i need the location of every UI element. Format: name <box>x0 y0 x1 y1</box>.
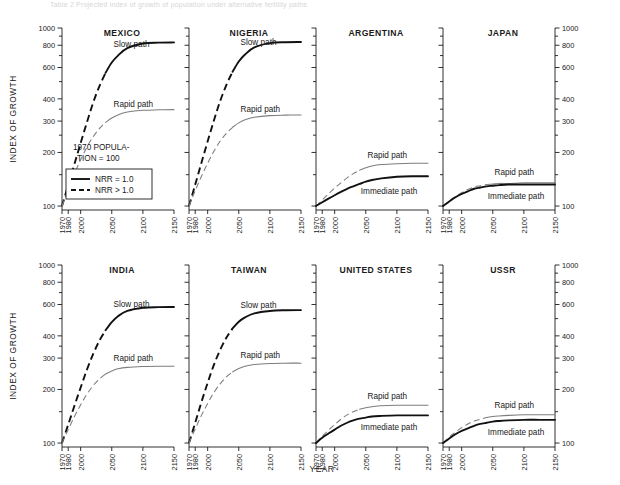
y-tick-label: 300 <box>562 354 574 363</box>
x-tick-label: 2050 <box>235 454 244 470</box>
panel-title: ARGENTINA <box>348 28 403 38</box>
panel-title: UNITED STATES <box>340 265 413 275</box>
x-tick-label: 2100 <box>139 217 148 233</box>
x-tick-label: 2050 <box>108 217 117 233</box>
y-tick-label: 800 <box>562 278 574 287</box>
panel-nigeria: 197019802000205021002150NIGERIASlow path… <box>185 28 307 233</box>
y-tick-label: 600 <box>43 63 55 72</box>
x-tick-label: 2050 <box>362 454 371 470</box>
x-tick-label: 2150 <box>170 217 179 233</box>
curve-rapid-path-dashed <box>189 127 233 206</box>
legend-item-label: NRR = 1.0 <box>95 175 134 184</box>
panel-title: NIGERIA <box>230 28 269 38</box>
curve-slow-path-solid <box>233 310 301 328</box>
x-tick-label: 2150 <box>424 454 433 470</box>
x-axis-title: YEAR <box>310 464 335 474</box>
y-axis <box>58 265 63 447</box>
legend: 1970 POPULA-TION = 100NRR = 1.0NRR > 1.0 <box>66 143 152 199</box>
curve-label-rapid-path: Rapid path <box>114 354 154 363</box>
x-axis: 197019802000205021002150 <box>58 447 179 470</box>
curve-rapid-path-dashed <box>62 374 106 443</box>
y-tick-label: 100 <box>43 202 55 211</box>
y-axis <box>185 265 190 447</box>
curve-label-slow-path: Slow path <box>241 301 277 310</box>
x-axis: 197019802000205021002150 <box>312 210 433 233</box>
curve-label-immediate-path: Immediate path <box>361 187 418 196</box>
y-axis <box>312 265 317 447</box>
curve-rapid-path-solid <box>233 363 301 372</box>
y-tick-labels: 1002003004006008001000 <box>562 24 578 211</box>
x-tick-label: 2000 <box>331 217 340 233</box>
y-axis-title-bottom: INDEX OF GROWTH <box>8 312 18 400</box>
x-tick-label: 2150 <box>297 454 306 470</box>
y-tick-label: 100 <box>562 439 574 448</box>
y-tick-label: 400 <box>43 95 55 104</box>
y-tick-label: 1000 <box>562 24 578 33</box>
y-tick-label: 1000 <box>39 261 55 270</box>
y-axis-title-top: INDEX OF GROWTH <box>8 75 18 163</box>
curve-rapid-path-solid <box>487 415 555 418</box>
panel-title: USSR <box>490 265 516 275</box>
y-axis <box>439 265 444 447</box>
panel-india: 1002003004006008001000197019802000205021… <box>39 261 179 471</box>
x-tick-label: 2000 <box>458 217 467 233</box>
legend-item-label: NRR > 1.0 <box>95 186 134 195</box>
panel-united-states: 197019802000205021002150UNITED STATESRap… <box>312 265 434 470</box>
curve-rapid-path-dashed <box>316 170 360 206</box>
panel-title: JAPAN <box>488 28 519 38</box>
y-tick-label: 600 <box>43 300 55 309</box>
y-tick-label: 200 <box>562 148 574 157</box>
y-axis <box>555 28 560 210</box>
curve-label-slow-path: Slow path <box>114 300 150 309</box>
panel-title: INDIA <box>109 265 135 275</box>
x-tick-label: 1980 <box>191 217 200 233</box>
x-tick-label: 2100 <box>266 454 275 470</box>
x-tick-label: 2000 <box>204 217 213 233</box>
panel-taiwan: 197019802000205021002150TAIWANSlow pathR… <box>185 265 307 470</box>
y-tick-label: 200 <box>562 385 574 394</box>
x-axis: 197019802000205021002150 <box>58 210 179 233</box>
curve-rapid-path-solid <box>360 163 428 170</box>
y-tick-label: 300 <box>43 117 55 126</box>
curve-label-immediate-path: Immediate path <box>361 423 418 432</box>
y-tick-label: 800 <box>43 278 55 287</box>
x-axis: 197019802000205021002150 <box>185 447 306 470</box>
curve-rapid-path-solid <box>360 405 428 409</box>
x-tick-label: 2150 <box>551 454 560 470</box>
x-tick-label: 1980 <box>445 454 454 470</box>
curve-label-immediate-path: Immediate path <box>488 428 545 437</box>
x-tick-label: 2000 <box>77 454 86 470</box>
x-tick-label: 2150 <box>424 217 433 233</box>
y-axis <box>312 28 317 210</box>
x-tick-label: 2000 <box>77 217 86 233</box>
x-tick-label: 1980 <box>191 454 200 470</box>
curve-rapid-path-solid <box>106 110 174 123</box>
x-axis: 197019802000205021002150 <box>439 447 560 470</box>
curve-slow-path-dashed <box>62 330 106 443</box>
legend-annotation-line2: TION = 100 <box>77 154 120 163</box>
curve-label-immediate-path: Immediate path <box>488 192 545 201</box>
panel-japan: 1002003004006008001000197019802000205021… <box>439 24 579 234</box>
y-tick-labels: 1002003004006008001000 <box>562 261 578 448</box>
y-tick-label: 200 <box>43 148 55 157</box>
legend-annotation-line1: 1970 POPULA- <box>73 143 130 152</box>
x-tick-label: 2050 <box>489 454 498 470</box>
curve-label-rapid-path: Rapid path <box>241 105 281 114</box>
x-tick-label: 2050 <box>362 217 371 233</box>
x-tick-label: 2000 <box>204 454 213 470</box>
curve-label-rapid-path: Rapid path <box>241 351 281 360</box>
curve-rapid-path-dashed <box>189 372 233 443</box>
panel-title: MEXICO <box>104 28 141 38</box>
panel-argentina: 197019802000205021002150ARGENTINARapid p… <box>312 28 434 233</box>
multi-panel-line-chart: 1002003004006008001000197019802000205021… <box>0 0 620 485</box>
curve-rapid-path-solid <box>106 366 174 374</box>
y-tick-label: 300 <box>562 117 574 126</box>
y-tick-label: 100 <box>562 202 574 211</box>
curve-label-rapid-path: Rapid path <box>368 151 408 160</box>
x-tick-label: 2150 <box>551 217 560 233</box>
y-tick-label: 300 <box>43 354 55 363</box>
x-tick-label: 2000 <box>458 454 467 470</box>
x-tick-label: 2100 <box>393 217 402 233</box>
x-tick-label: 2150 <box>170 454 179 470</box>
y-tick-labels: 1002003004006008001000 <box>39 261 55 448</box>
